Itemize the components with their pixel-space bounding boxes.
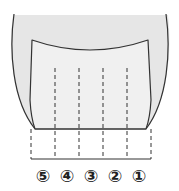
section-label-5: ⑤ [36, 166, 50, 186]
section-label-2: ② [108, 166, 122, 186]
cap-section-diagram: ⑤ ④ ③ ② ① [0, 0, 179, 191]
section-labels: ⑤ ④ ③ ② ① [36, 166, 146, 186]
section-label-4: ④ [60, 166, 74, 186]
inner-panel [30, 40, 151, 129]
section-label-3: ③ [84, 166, 98, 186]
section-label-1: ① [132, 166, 146, 186]
